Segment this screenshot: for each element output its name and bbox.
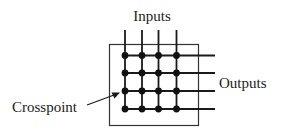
crosspoint-dot (122, 52, 129, 59)
output-lines (125, 56, 215, 110)
crosspoint-dot (155, 52, 162, 59)
crosspoint-dot (155, 70, 162, 77)
crosspoint-dot (155, 88, 162, 95)
crosspoint-dot (122, 88, 129, 95)
crosspoint-dot (122, 70, 129, 77)
crosspoint-dot (173, 106, 180, 113)
crosspoint-dot (139, 70, 146, 77)
crosspoint-dot (139, 106, 146, 113)
crosspoint-dot (139, 88, 146, 95)
crosspoint-dot (139, 52, 146, 59)
crosspoint-dot (155, 106, 162, 113)
crosspoints (122, 52, 180, 112)
crosspoint-label: Crosspoint (12, 99, 78, 115)
input-lines (125, 30, 177, 109)
crosspoint-dot (173, 70, 180, 77)
outputs-label: Outputs (219, 75, 267, 91)
crosspoint-dot (122, 106, 129, 113)
crosspoint-dot (173, 52, 180, 59)
crossbar-diagram: Inputs Outputs Crosspoint (0, 0, 287, 135)
crosspoint-arrow (87, 93, 120, 106)
inputs-label: Inputs (133, 8, 171, 24)
crosspoint-dot (173, 88, 180, 95)
